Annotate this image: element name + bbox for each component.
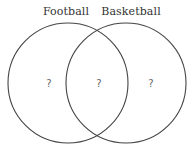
- basketball-only-value: ?: [148, 78, 153, 89]
- venn-diagram: Football Basketball ? ? ?: [0, 0, 196, 152]
- football-label: Football: [43, 5, 89, 18]
- basketball-circle: [66, 23, 186, 143]
- venn-circles: [0, 0, 196, 152]
- football-only-value: ?: [46, 78, 51, 89]
- basketball-label: Basketball: [101, 5, 161, 18]
- intersection-value: ?: [96, 78, 101, 89]
- football-circle: [8, 23, 128, 143]
